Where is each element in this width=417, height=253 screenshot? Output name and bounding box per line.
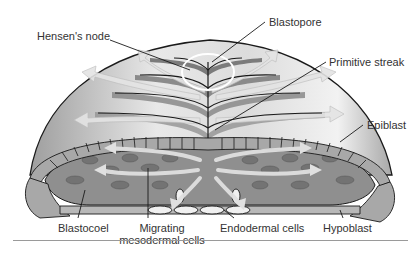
label-primitive-streak: Primitive streak: [329, 56, 404, 68]
bottom-rule: [13, 240, 408, 241]
label-migrating-mesodermal-cells: Migrating mesodermal cells: [116, 222, 208, 246]
label-endodermal-cells: Endodermal cells: [220, 222, 304, 234]
gastrulation-diagram: Hensen's node Blastopore Primitive strea…: [0, 0, 417, 253]
label-migrating-line1: Migrating: [116, 222, 208, 234]
label-hypoblast: Hypoblast: [323, 222, 372, 234]
label-blastopore: Blastopore: [269, 16, 322, 28]
label-hensens-node: Hensen's node: [37, 30, 110, 42]
label-epiblast: Epiblast: [367, 119, 406, 131]
label-blastocoel: Blastocoel: [58, 222, 109, 234]
